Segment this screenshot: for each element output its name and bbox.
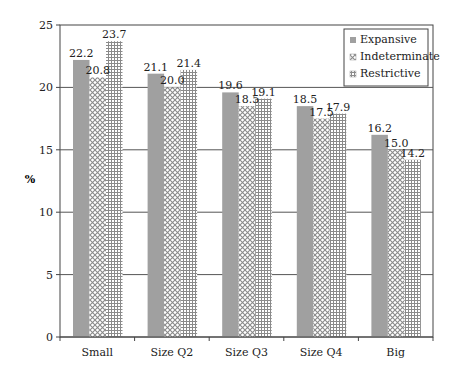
bar-indeterminate xyxy=(90,77,107,337)
x-tick-label: Size Q4 xyxy=(300,346,343,359)
legend-swatch-restrictive xyxy=(350,71,356,77)
bar-expansive xyxy=(222,92,239,337)
y-tick-label: 15 xyxy=(39,144,53,157)
y-tick-label: 10 xyxy=(39,206,53,219)
y-tick-label: 20 xyxy=(39,81,53,94)
bar-expansive xyxy=(297,106,314,337)
legend-swatch-expansive xyxy=(350,37,356,43)
value-label: 23.7 xyxy=(102,28,127,41)
x-tick-label: Size Q3 xyxy=(225,346,268,359)
legend-label-expansive: Expansive xyxy=(360,33,417,46)
value-label: 18.5 xyxy=(293,93,318,106)
bar-indeterminate xyxy=(388,150,405,337)
value-label: 20.8 xyxy=(86,64,111,77)
value-label: 19.6 xyxy=(218,79,243,92)
value-label: 19.1 xyxy=(251,86,276,99)
value-label: 22.2 xyxy=(69,47,94,60)
bar-restrictive xyxy=(181,70,198,337)
x-axis: SmallSize Q2Size Q3Size Q4Big xyxy=(60,337,433,359)
bar-indeterminate xyxy=(313,119,330,337)
bar-restrictive xyxy=(404,160,421,337)
bar-restrictive xyxy=(330,114,347,337)
value-label: 14.2 xyxy=(400,147,425,160)
bar-expansive xyxy=(371,135,388,337)
x-tick-label: Big xyxy=(386,346,405,359)
legend-swatch-indeterminate xyxy=(350,54,356,60)
y-axis: 0510152025 xyxy=(39,19,60,344)
bar-chart: 0510152025 22.220.823.721.120.021.419.61… xyxy=(0,0,455,376)
y-tick-label: 25 xyxy=(39,19,53,32)
x-tick-label: Small xyxy=(82,346,114,359)
bar-indeterminate xyxy=(164,87,181,337)
x-tick-label: Size Q2 xyxy=(150,346,193,359)
y-axis-label: % xyxy=(25,173,36,186)
bar-restrictive xyxy=(255,99,272,337)
bar-restrictive xyxy=(106,41,123,337)
legend: ExpansiveIndeterminateRestrictive xyxy=(344,29,440,86)
y-tick-label: 0 xyxy=(46,331,53,344)
value-label: 21.4 xyxy=(177,57,202,70)
value-label: 21.1 xyxy=(144,61,169,74)
value-label: 17.9 xyxy=(326,101,351,114)
bar-expansive xyxy=(73,60,90,337)
value-label: 16.2 xyxy=(367,122,392,135)
value-label: 20.0 xyxy=(160,74,185,87)
y-tick-label: 5 xyxy=(46,269,53,282)
legend-label-restrictive: Restrictive xyxy=(360,67,420,80)
legend-label-indeterminate: Indeterminate xyxy=(360,50,440,63)
bar-expansive xyxy=(148,74,165,337)
bar-indeterminate xyxy=(239,106,256,337)
